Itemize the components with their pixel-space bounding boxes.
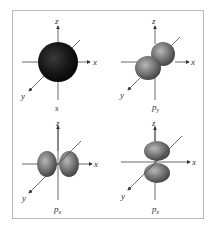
y-axis-label: y — [21, 193, 26, 203]
px-orbital-lobe-right — [59, 151, 79, 177]
x-axis-label: x — [191, 157, 196, 167]
panel-pz-orbital: z x y pz — [120, 118, 196, 215]
px-orbital-lobe-left — [37, 151, 57, 177]
y-axis-label: y — [20, 91, 25, 101]
x-axis-label: x — [190, 57, 195, 67]
panel-s-orbital: z x y s — [20, 16, 97, 113]
z-axis-label: z — [151, 118, 156, 128]
pz-orbital-lobe-bottom — [144, 163, 170, 183]
x-axis-label: x — [92, 57, 97, 67]
orbital-diagram: z x y s z x y py z — [0, 0, 217, 230]
orbital-label-px: px — [53, 204, 62, 215]
y-axis-label: y — [120, 191, 125, 201]
z-axis-label: z — [54, 16, 59, 26]
orbital-label-py: py — [151, 102, 160, 113]
y-axis-label: y — [119, 90, 124, 100]
orbital-label-s: s — [55, 103, 59, 113]
panel-py-orbital: z x y py — [119, 16, 195, 113]
x-axis-label: x — [93, 159, 98, 169]
pz-orbital-lobe-top — [144, 141, 170, 161]
z-axis-label: z — [55, 118, 60, 128]
orbital-label-pz: pz — [151, 204, 160, 215]
py-orbital-lobe-front — [135, 56, 161, 80]
z-axis-label: z — [151, 16, 156, 26]
panel-px-orbital: z x y px — [21, 118, 98, 215]
